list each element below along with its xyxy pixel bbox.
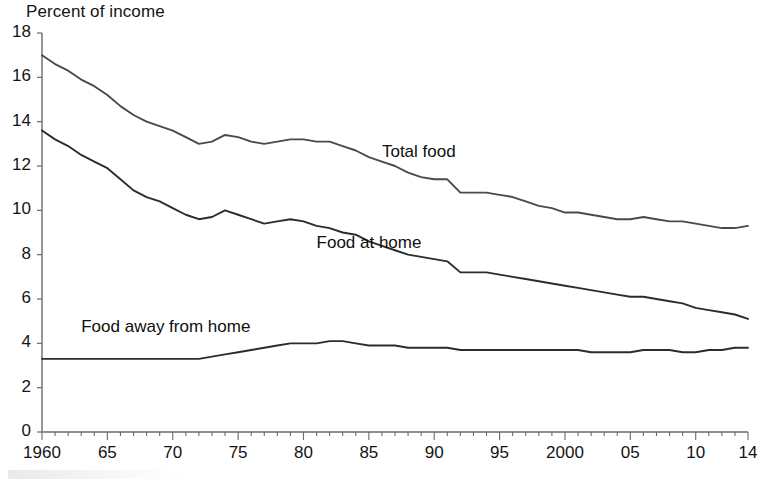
x-tick-label: 05: [600, 443, 660, 463]
x-tick-label: 80: [273, 443, 333, 463]
x-tick-label: 2000: [535, 443, 595, 463]
y-tick-label: 2: [5, 377, 31, 397]
y-tick-label: 8: [5, 244, 31, 264]
y-tick-label: 18: [5, 22, 31, 42]
x-tick-label: 65: [77, 443, 137, 463]
x-tick-label: 14: [718, 443, 762, 463]
series-label-food-away-from-home: Food away from home: [81, 317, 250, 337]
x-tick-label: 85: [339, 443, 399, 463]
x-tick-label: 75: [208, 443, 268, 463]
y-tick-label: 12: [5, 155, 31, 175]
data-series-lines: [42, 55, 748, 359]
y-tick-label: 10: [5, 199, 31, 219]
y-tick-label: 14: [5, 111, 31, 131]
series-label-food-at-home: Food at home: [317, 233, 422, 253]
x-tick-label: 70: [143, 443, 203, 463]
y-tick-label: 4: [5, 332, 31, 352]
y-tick-label: 16: [5, 66, 31, 86]
y-tick-label: 6: [5, 288, 31, 308]
x-tick-label: 1960: [12, 443, 72, 463]
series-line-food-away-from-home: [42, 341, 748, 359]
series-label-total-food: Total food: [382, 142, 456, 162]
x-tick-label: 95: [470, 443, 530, 463]
page-artifact-smudge: [8, 470, 188, 479]
y-tick-label: 0: [5, 421, 31, 441]
x-tick-label: 90: [404, 443, 464, 463]
x-tick-label: 10: [666, 443, 726, 463]
